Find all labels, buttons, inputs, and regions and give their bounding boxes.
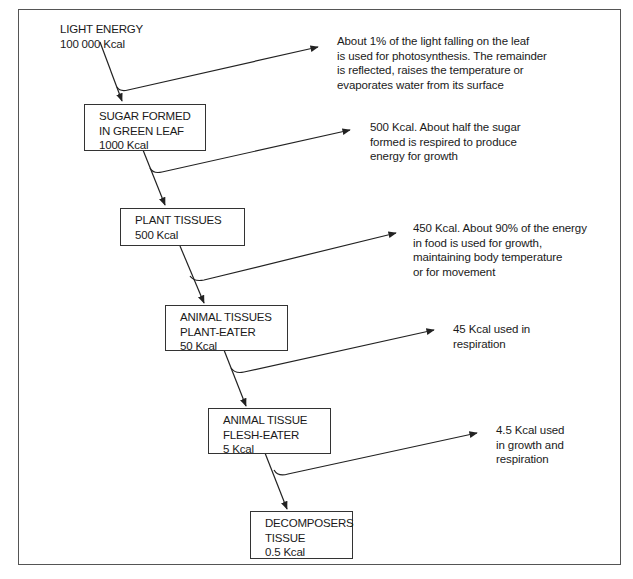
note-line: 45 Kcal used in <box>453 322 530 337</box>
node-flesh-eater: ANIMAL TISSUE FLESH-EATER 5 Kcal <box>208 408 331 454</box>
loss-note-herbivore: 45 Kcal used in respiration <box>453 322 530 351</box>
node-plant-tissues: PLANT TISSUES 500 Kcal <box>120 208 245 246</box>
node-line: PLANT TISSUES <box>135 213 244 228</box>
node-line: FLESH-EATER <box>223 428 330 443</box>
note-line: or for movement <box>413 265 587 280</box>
note-line: respiration <box>496 452 564 467</box>
loss-note-sugar: 500 Kcal. About half the sugar formed is… <box>370 120 520 164</box>
loss-note-plant: 450 Kcal. About 90% of the energy in foo… <box>413 221 587 279</box>
note-line: formed is respired to produce <box>370 135 520 150</box>
loss-note-light: About 1% of the light falling on the lea… <box>337 34 547 92</box>
node-decomposers: DECOMPOSERS TISSUE 0.5 Kcal <box>250 511 353 559</box>
note-line: maintaining body temperature <box>413 250 587 265</box>
note-line: 450 Kcal. About 90% of the energy <box>413 221 587 236</box>
note-line: respiration <box>453 337 530 352</box>
node-line: DECOMPOSERS <box>265 516 352 531</box>
note-line: is used for photosynthesis. The remainde… <box>337 49 547 64</box>
flow-arrow-sugar-to-plant <box>143 150 165 205</box>
loss-note-carnivore: 4.5 Kcal used in growth and respiration <box>496 423 564 467</box>
node-line: 1000 Kcal <box>99 138 205 153</box>
note-line: in growth and <box>496 438 564 453</box>
node-line: PLANT-EATER <box>180 325 287 340</box>
node-line: ANIMAL TISSUE <box>223 413 330 428</box>
node-line: 50 Kcal <box>180 339 287 354</box>
node-line: 5 Kcal <box>223 442 330 457</box>
loss-arrow-light <box>117 47 318 91</box>
note-line: is reflected, raises the temperature or <box>337 63 547 78</box>
node-plant-eater: ANIMAL TISSUES PLANT-EATER 50 Kcal <box>165 305 288 351</box>
note-line: in food is used for growth, <box>413 236 587 251</box>
node-line: 0.5 Kcal <box>265 545 352 560</box>
node-sugar: SUGAR FORMED IN GREEN LEAF 1000 Kcal <box>84 104 206 151</box>
note-line: 4.5 Kcal used <box>496 423 564 438</box>
flow-arrow-carnivore-to-decomposer <box>265 453 287 509</box>
note-line: evaporates water from its surface <box>337 78 547 93</box>
node-line: 500 Kcal <box>135 228 244 243</box>
note-line: 500 Kcal. About half the sugar <box>370 120 520 135</box>
note-line: energy for growth <box>370 149 520 164</box>
node-line: TISSUE <box>265 531 352 546</box>
source-line: 100 000 Kcal <box>60 37 143 52</box>
source-line: LIGHT ENERGY <box>60 22 143 37</box>
light-energy-source: LIGHT ENERGY 100 000 Kcal <box>60 22 143 51</box>
note-line: About 1% of the light falling on the lea… <box>337 34 547 49</box>
node-line: IN GREEN LEAF <box>99 124 205 139</box>
flow-arrow-herbivore-to-carnivore <box>224 350 246 406</box>
node-line: ANIMAL TISSUES <box>180 310 287 325</box>
node-line: SUGAR FORMED <box>99 109 205 124</box>
flow-arrow-plant-to-herbivore <box>180 246 204 303</box>
